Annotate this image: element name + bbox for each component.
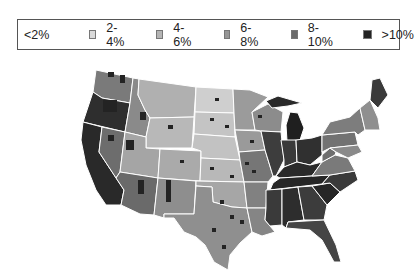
state-south-dakota [194,112,235,137]
state-new-york [322,108,365,135]
us-choropleth-map [0,0,417,274]
state-arkansas [244,182,268,208]
state-michigan-upper [266,96,302,108]
state-new-mexico [154,178,196,218]
state-kansas [200,158,244,182]
state-mississippi [265,189,282,226]
state-montana [138,79,196,118]
state-florida [286,220,341,262]
state-north-dakota [195,87,234,113]
state-ohio [296,135,322,165]
state-colorado [158,149,201,181]
state-maine [370,78,388,108]
state-michigan-lower [286,112,304,141]
state-wyoming [146,117,194,148]
